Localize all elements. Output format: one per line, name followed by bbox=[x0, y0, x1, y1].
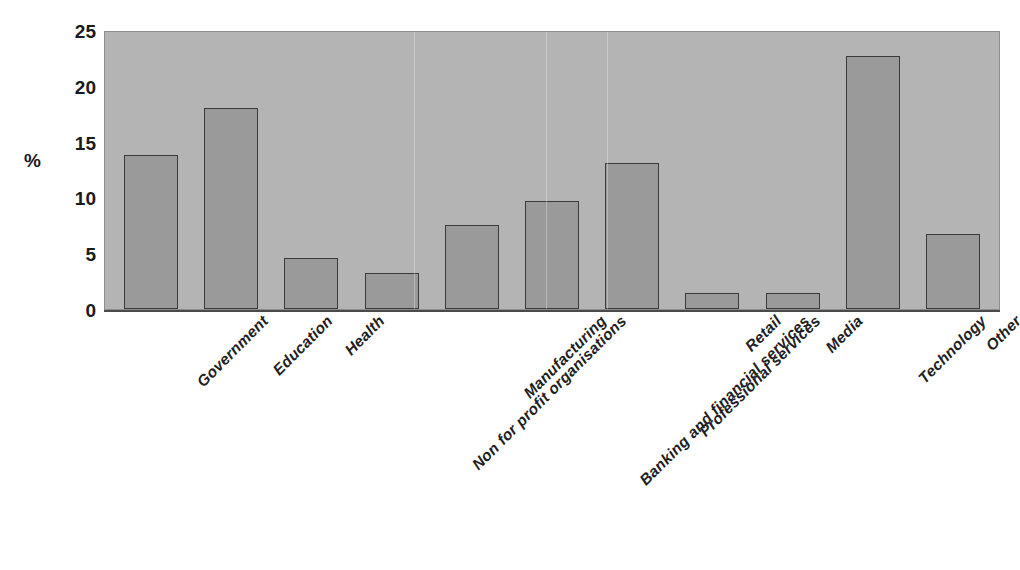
bar bbox=[124, 155, 178, 309]
bar bbox=[525, 201, 579, 309]
bar-slot bbox=[111, 32, 191, 309]
bar bbox=[685, 293, 739, 309]
y-tick-label: 20 bbox=[52, 77, 96, 96]
plot-artifact-rule bbox=[414, 32, 415, 309]
plot-area bbox=[104, 31, 1000, 310]
y-tick-label: 15 bbox=[52, 133, 96, 152]
bar-slot bbox=[271, 32, 351, 309]
bar bbox=[284, 258, 338, 309]
bar-slot bbox=[753, 32, 833, 309]
x-tick-label: Technology bbox=[915, 312, 990, 387]
bar-series bbox=[105, 32, 999, 309]
x-tick-label: Non for profit organisations bbox=[469, 312, 631, 474]
y-axis-title: % bbox=[24, 150, 41, 172]
y-tick-label: 0 bbox=[52, 301, 96, 320]
bar bbox=[926, 234, 980, 309]
x-axis-tick-labels: GovernmentEducationHealthNon for profit … bbox=[104, 312, 1000, 562]
bar bbox=[204, 108, 258, 309]
bar-slot bbox=[352, 32, 432, 309]
y-axis: 0510152025 bbox=[50, 0, 96, 570]
plot-artifact-rule bbox=[546, 32, 547, 309]
x-tick-label: Other bbox=[982, 312, 1020, 355]
plot-artifact-rule bbox=[607, 32, 608, 309]
bar-slot bbox=[913, 32, 993, 309]
y-tick-label: 5 bbox=[52, 245, 96, 264]
bar bbox=[605, 163, 659, 309]
bar-slot bbox=[432, 32, 512, 309]
bar-slot bbox=[592, 32, 672, 309]
bar bbox=[766, 293, 820, 309]
bar bbox=[445, 225, 499, 309]
bar-slot bbox=[512, 32, 592, 309]
x-tick-label: Government bbox=[194, 312, 273, 391]
y-tick-label: 25 bbox=[52, 22, 96, 41]
x-tick-label: Media bbox=[822, 312, 867, 357]
x-tick-label: Education bbox=[269, 312, 336, 379]
x-tick-label: Health bbox=[341, 312, 388, 359]
bar bbox=[846, 56, 900, 309]
bar-slot bbox=[833, 32, 913, 309]
y-tick-label: 10 bbox=[52, 189, 96, 208]
bar-chart: % 0510152025 GovernmentEducationHealthNo… bbox=[0, 0, 1020, 570]
bar-slot bbox=[672, 32, 752, 309]
bar-slot bbox=[191, 32, 271, 309]
bar bbox=[365, 273, 419, 309]
